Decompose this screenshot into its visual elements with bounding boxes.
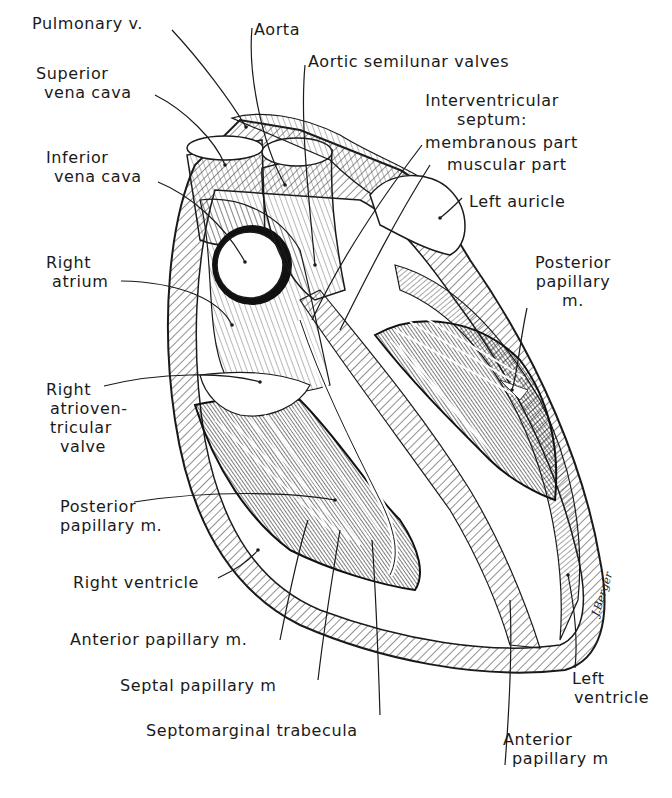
label-pulmonary-v: Pulmonary v. [32, 14, 143, 33]
label-line: Right ventricle [73, 573, 199, 592]
label-posterior-papillary-left: Posterior papillary m. [514, 253, 632, 310]
label-right-av-valve: Right atrioven- tricular valve [46, 380, 128, 456]
label-line: Right [46, 380, 128, 399]
label-line: tricular [50, 418, 128, 437]
label-line: Inferior [46, 148, 142, 167]
label-line: membranous part [425, 133, 578, 152]
label-line: Aorta [254, 20, 300, 39]
label-line: atrium [52, 272, 108, 291]
label-interventricular-septum: Interventricular septum: [408, 91, 576, 129]
label-right-atrium: Right atrium [46, 253, 108, 291]
label-line: Posterior [60, 497, 162, 516]
label-anterior-papillary-right: Anterior papillary m. [70, 630, 247, 649]
label-right-ventricle: Right ventricle [73, 573, 199, 592]
label-line: Pulmonary v. [32, 14, 143, 33]
label-line: Left auricle [469, 192, 565, 211]
label-membranous-part: membranous part [425, 133, 578, 152]
label-line: Interventricular [408, 91, 576, 110]
label-superior-vena-cava: Superior vena cava [36, 64, 132, 102]
label-line: papillary m [512, 749, 609, 768]
label-line: valve [60, 437, 128, 456]
label-line: papillary m. [60, 516, 162, 535]
label-line: Anterior papillary m. [70, 630, 247, 649]
label-line: Left [572, 669, 596, 688]
label-line: vena cava [44, 83, 132, 102]
label-line: Right [46, 253, 108, 272]
label-muscular-part: muscular part [447, 155, 567, 174]
label-line: ventricle [574, 688, 596, 707]
label-line: Aortic semilunar valves [308, 52, 509, 71]
label-septal-papillary: Septal papillary m [120, 676, 277, 695]
label-line: papillary [514, 272, 632, 291]
label-aorta: Aorta [254, 20, 300, 39]
label-left-ventricle: Left ventricle [486, 669, 596, 707]
label-line: m. [514, 291, 632, 310]
label-septomarginal-trabecula: Septomarginal trabecula [146, 721, 358, 740]
label-posterior-papillary-right: Posterior papillary m. [60, 497, 162, 535]
label-line: muscular part [447, 155, 567, 174]
label-line: Septomarginal trabecula [146, 721, 358, 740]
label-line: atrioven- [50, 399, 128, 418]
label-anterior-papillary-left: Anterior papillary m [441, 730, 609, 768]
label-inferior-vena-cava: Inferior vena cava [46, 148, 142, 186]
label-left-auricle: Left auricle [469, 192, 565, 211]
label-line: Anterior [503, 730, 609, 749]
label-line: Superior [36, 64, 132, 83]
label-aortic-semilunar-valves: Aortic semilunar valves [308, 52, 509, 71]
label-line: septum: [408, 110, 576, 129]
label-line: vena cava [54, 167, 142, 186]
label-line: Septal papillary m [120, 676, 277, 695]
label-line: Posterior [514, 253, 632, 272]
